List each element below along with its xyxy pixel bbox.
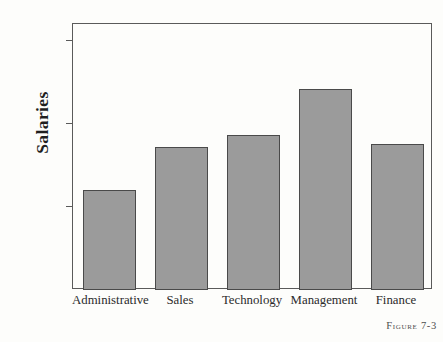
x-axis-tick-label: Sales bbox=[144, 293, 216, 308]
plot-area bbox=[72, 23, 432, 289]
bar bbox=[83, 190, 136, 290]
y-axis-title: Salaries bbox=[32, 63, 53, 183]
figure-container: Salaries 150K100K50 K0 AdministrativeSal… bbox=[0, 0, 443, 342]
bar bbox=[227, 135, 280, 290]
x-axis-tick-label: Management bbox=[288, 293, 360, 308]
bar bbox=[155, 147, 208, 290]
x-axis-tick-label: Administrative bbox=[72, 293, 144, 308]
x-axis-tick-label: Technology bbox=[216, 293, 288, 308]
bar bbox=[299, 89, 352, 290]
figure-caption: Figure 7-3 bbox=[386, 320, 437, 331]
x-axis-tick-label: Finance bbox=[360, 293, 432, 308]
bar bbox=[371, 144, 424, 290]
